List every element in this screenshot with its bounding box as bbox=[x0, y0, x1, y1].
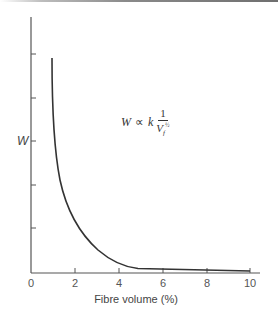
svg-text:10: 10 bbox=[244, 277, 256, 289]
formula-denominator: Vf½ bbox=[156, 121, 169, 137]
formula-fraction: 1 Vf½ bbox=[156, 108, 169, 137]
formula-lhs: W bbox=[121, 115, 131, 130]
data-curve bbox=[52, 58, 250, 271]
svg-text:8: 8 bbox=[204, 277, 210, 289]
formula-numerator: 1 bbox=[158, 108, 168, 121]
svg-text:6: 6 bbox=[160, 277, 166, 289]
svg-text:0: 0 bbox=[28, 277, 34, 289]
formula-annotation: W ∝ k 1 Vf½ bbox=[121, 108, 170, 137]
x-axis-label: Fibre volume (%) bbox=[94, 293, 178, 305]
y-axis-label: W bbox=[17, 134, 30, 148]
x-tick-labels: 0 2 4 6 8 10 bbox=[28, 277, 256, 289]
formula-coef: k bbox=[148, 115, 153, 130]
chart-canvas: 0 2 4 6 8 10 Fibre volume (%) W bbox=[0, 0, 278, 311]
svg-text:2: 2 bbox=[72, 277, 78, 289]
svg-text:4: 4 bbox=[116, 277, 122, 289]
y-axis-ticks bbox=[31, 54, 36, 228]
formula-relation: ∝ bbox=[135, 115, 144, 130]
